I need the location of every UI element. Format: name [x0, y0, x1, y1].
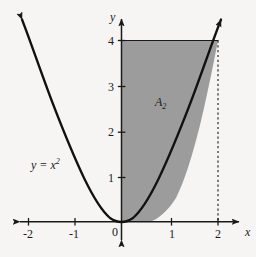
y-tick-label-1: 1: [108, 172, 114, 184]
x-tick-label-1: 1: [169, 228, 175, 240]
plot-canvas: [0, 0, 256, 257]
curve-equation-base: y = x: [31, 158, 56, 172]
region-label-subscript: 2: [162, 102, 166, 111]
y-tick-label-2: 2: [108, 126, 114, 138]
parabola-area-figure: -2 -1 1 2 0 1 2 3 4 x y y = x2 A2: [0, 0, 256, 257]
curve-equation-exponent: 2: [56, 157, 60, 166]
y-axis-label: y: [110, 11, 115, 23]
curve-equation-label: y = x2: [31, 158, 60, 171]
y-tick-label-4: 4: [108, 35, 114, 47]
region-label-a2: A2: [155, 96, 166, 111]
origin-label: 0: [112, 226, 118, 238]
x-axis-label: x: [245, 226, 250, 238]
x-tick-label-minus-1: -1: [69, 228, 79, 240]
x-tick-label-2: 2: [215, 228, 221, 240]
x-tick-label-minus-2: -2: [23, 228, 33, 240]
y-tick-label-3: 3: [108, 81, 114, 93]
